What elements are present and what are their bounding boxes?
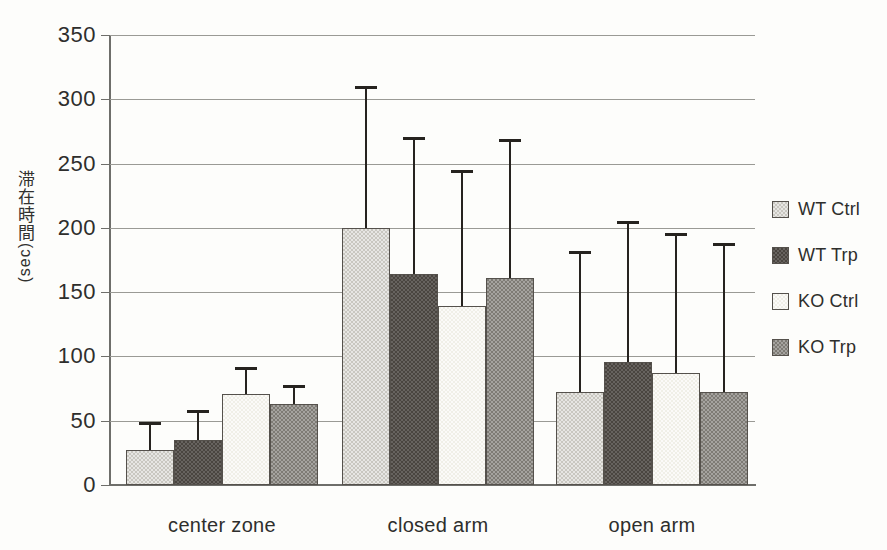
bar — [342, 228, 390, 485]
error-bar-stem — [675, 233, 677, 373]
legend: WT CtrlWT TrpKO CtrlKO Trp — [772, 186, 884, 370]
x-axis-category-label: center zone — [168, 514, 276, 537]
error-bar-stem — [579, 251, 581, 392]
bar — [556, 392, 604, 485]
y-axis-tick — [101, 164, 110, 165]
error-bar-cap — [569, 251, 591, 254]
error-bar-stem — [509, 139, 511, 278]
y-axis-line — [109, 35, 111, 485]
error-bar-cap — [235, 367, 257, 370]
y-axis-tick — [101, 421, 110, 422]
y-axis-tick — [101, 228, 110, 229]
y-axis-tick-label: 100 — [58, 343, 96, 369]
error-bar-cap — [139, 422, 161, 425]
y-axis-tick-label: 50 — [71, 408, 96, 434]
x-axis-category-label: closed arm — [388, 514, 489, 537]
bar — [700, 392, 748, 485]
error-bar-cap — [187, 410, 209, 413]
error-bar-cap — [283, 385, 305, 388]
bar — [390, 274, 438, 485]
error-bar-cap — [355, 86, 377, 89]
error-bar-stem — [365, 86, 367, 227]
bar — [486, 278, 534, 485]
legend-swatch-icon — [772, 339, 789, 356]
legend-item-ko-ctrl: KO Ctrl — [772, 278, 884, 324]
cropped-caption-strip — [26, 541, 356, 550]
error-bar-stem — [461, 170, 463, 306]
y-axis-tick — [101, 99, 110, 100]
bar — [174, 440, 222, 485]
y-axis-tick-label: 350 — [58, 22, 96, 48]
error-bar-cap — [499, 139, 521, 142]
y-axis-tick-label: 250 — [58, 151, 96, 177]
error-bar-cap — [617, 221, 639, 224]
legend-item-ko-trp: KO Trp — [772, 324, 884, 370]
gridline — [110, 164, 755, 165]
bar — [222, 394, 270, 485]
error-bar-stem — [197, 410, 199, 440]
error-bar-cap — [665, 233, 687, 236]
bar-chart-figure: 滞在時間 (sec) 050100150200250300350 center … — [0, 0, 887, 550]
legend-swatch-icon — [772, 201, 789, 218]
y-axis-tick — [101, 292, 110, 293]
legend-swatch-icon — [772, 293, 789, 310]
bar — [438, 306, 486, 485]
bar — [604, 362, 652, 485]
error-bar-stem — [149, 422, 151, 450]
bar — [126, 450, 174, 485]
error-bar-stem — [723, 243, 725, 392]
error-bar-stem — [413, 137, 415, 275]
legend-label: KO Trp — [798, 337, 856, 358]
legend-swatch-icon — [772, 247, 789, 264]
y-axis-tick-label: 150 — [58, 279, 96, 305]
plot-area: 050100150200250300350 — [110, 35, 755, 485]
y-axis-title: 滞在時間 (sec) — [8, 170, 42, 283]
error-bar-cap — [403, 137, 425, 140]
bar — [270, 404, 318, 485]
y-axis-tick-label: 200 — [58, 215, 96, 241]
gridline — [110, 35, 755, 36]
error-bar-cap — [713, 243, 735, 246]
error-bar-cap — [451, 170, 473, 173]
legend-label: WT Trp — [798, 245, 858, 266]
y-axis-tick-label: 300 — [58, 86, 96, 112]
legend-label: KO Ctrl — [798, 291, 858, 312]
bar — [652, 373, 700, 485]
error-bar-stem — [627, 221, 629, 361]
gridline — [110, 99, 755, 100]
error-bar-stem — [245, 367, 247, 394]
y-axis-tick — [101, 356, 110, 357]
y-axis-tick — [101, 485, 110, 486]
y-axis-title-japanese: 滞在時間 — [16, 170, 34, 242]
legend-label: WT Ctrl — [798, 199, 860, 220]
legend-item-wt-ctrl: WT Ctrl — [772, 186, 884, 232]
y-axis-title-unit: (sec) — [17, 242, 34, 283]
legend-item-wt-trp: WT Trp — [772, 232, 884, 278]
x-axis-category-label: open arm — [609, 514, 696, 537]
y-axis-tick — [101, 35, 110, 36]
gridline — [110, 228, 755, 229]
y-axis-tick-label: 0 — [83, 472, 96, 498]
